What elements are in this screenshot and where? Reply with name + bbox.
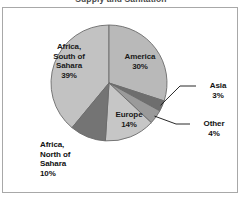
pie-label-europe: Europe 14%	[104, 110, 154, 129]
pie-label-africa-south-of-sahara: Africa, South of Sahara 39%	[38, 42, 100, 80]
pie-label-africa-north-of-sahara: Africa, North of Sahara 10%	[40, 140, 110, 178]
pie-label-other: Other 4%	[190, 119, 238, 138]
pie-svg	[0, 0, 242, 200]
leader-line-other	[155, 116, 191, 124]
pie-label-america: America 30%	[112, 52, 168, 71]
pie-label-asia: Asia 3%	[196, 81, 240, 100]
pie-chart-figure: Supply and Sanitation Africa, South of S…	[0, 0, 242, 200]
pie-plot-area: Africa, South of Sahara 39% America 30% …	[0, 0, 242, 200]
